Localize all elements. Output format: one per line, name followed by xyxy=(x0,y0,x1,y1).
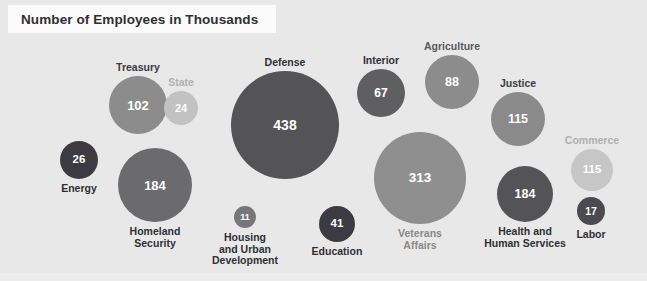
bubble-value-veterans-affairs: 313 xyxy=(409,171,432,185)
page-title: Number of Employees in Thousands xyxy=(21,12,258,27)
bubble-value-state: 24 xyxy=(175,103,187,114)
bubble-chart-canvas: Number of Employees in Thousands 102Trea… xyxy=(0,0,647,281)
bubble-labor[interactable]: 17 xyxy=(577,197,605,225)
bubble-label-agriculture: Agriculture xyxy=(372,41,532,53)
bubble-defense[interactable]: 438 xyxy=(231,71,339,179)
bubble-group-commerce: 115Commerce xyxy=(571,149,613,191)
bubble-group-labor: 17Labor xyxy=(577,197,605,225)
bubble-housing-and-urban-development[interactable]: 11 xyxy=(234,206,256,228)
bottom-strip xyxy=(0,273,647,281)
bubble-group-veterans-affairs: 313Veterans Affairs xyxy=(374,132,466,224)
bubble-value-energy: 26 xyxy=(73,154,86,166)
bubble-health-and-human-services[interactable]: 184 xyxy=(497,166,553,222)
bubble-value-housing-and-urban-development: 11 xyxy=(240,213,250,222)
bubble-energy[interactable]: 26 xyxy=(60,141,98,179)
bubble-value-defense: 438 xyxy=(273,118,296,132)
bubble-value-justice: 115 xyxy=(508,113,528,126)
bubble-value-treasury: 102 xyxy=(127,99,149,112)
bubble-group-energy: 26Energy xyxy=(60,141,98,179)
bubble-label-treasury: Treasury xyxy=(58,62,218,74)
bubble-label-labor: Labor xyxy=(511,229,647,241)
bubble-group-housing-and-urban-development: 11Housing and Urban Development xyxy=(234,206,256,228)
bubble-value-homeland-security: 184 xyxy=(144,179,166,192)
bubble-homeland-security[interactable]: 184 xyxy=(118,148,192,222)
bubble-veterans-affairs[interactable]: 313 xyxy=(374,132,466,224)
bubble-value-interior: 67 xyxy=(374,87,387,99)
bubble-commerce[interactable]: 115 xyxy=(571,149,613,191)
bubble-group-health-and-human-services: 184Health and Human Services xyxy=(497,166,553,222)
bubble-state[interactable]: 24 xyxy=(164,91,198,125)
bubble-label-justice: Justice xyxy=(438,78,598,90)
bubble-value-commerce: 115 xyxy=(583,164,602,176)
bubble-group-state: 24State xyxy=(164,91,198,125)
bubble-group-defense: 438Defense xyxy=(231,71,339,179)
bubble-group-interior: 67Interior xyxy=(357,69,405,117)
bubble-label-commerce: Commerce xyxy=(512,135,647,147)
bubble-interior[interactable]: 67 xyxy=(357,69,405,117)
bubble-group-homeland-security: 184Homeland Security xyxy=(118,148,192,222)
bubble-value-health-and-human-services: 184 xyxy=(515,188,536,201)
chart-title-box: Number of Employees in Thousands xyxy=(8,5,276,33)
bubble-value-labor: 17 xyxy=(585,206,597,217)
